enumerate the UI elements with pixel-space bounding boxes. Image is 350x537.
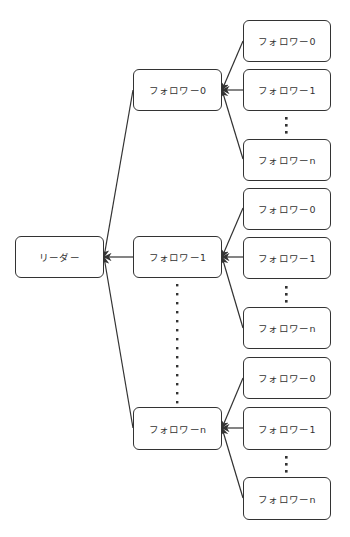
g2-child-n-node: フォロワーn (243, 477, 331, 520)
g2-child-1-label: フォロワー1 (258, 422, 316, 436)
follower-n-label: フォロワーn (149, 422, 207, 436)
g1-child-0-node: フォロワー0 (243, 188, 331, 230)
g0-child-n-label: フォロワーn (258, 153, 316, 167)
follower-0-label: フォロワー0 (149, 83, 207, 97)
g1-child-1-label: フォロワー1 (258, 251, 316, 265)
group1-ellipsis-dots (285, 286, 288, 303)
g1-child-1-node: フォロワー1 (243, 237, 331, 279)
edge-g2-child0-to-parent (222, 378, 243, 428)
follower-1-label: フォロワー1 (149, 250, 207, 264)
g0-child-n-node: フォロワーn (243, 139, 331, 181)
edge-g2-childn-to-parent (222, 428, 243, 498)
edge-g0-childn-to-parent (222, 90, 243, 159)
follower-0-node: フォロワー0 (133, 69, 222, 111)
middle-ellipsis-dots (176, 284, 178, 403)
leader-label: リーダー (39, 250, 80, 264)
edge-g1-childn-to-parent (222, 257, 243, 328)
g1-child-n-node: フォロワーn (243, 307, 331, 349)
g2-child-1-node: フォロワー1 (243, 407, 331, 450)
group0-ellipsis-dots (285, 117, 288, 134)
edge-follower0-to-leader (104, 90, 133, 257)
group2-ellipsis-dots (285, 456, 288, 473)
follower-n-node: フォロワーn (133, 407, 222, 450)
edge-g1-child0-to-parent (222, 208, 243, 257)
g2-child-0-label: フォロワー0 (258, 371, 316, 385)
diagram-canvas: リーダー フォロワー0 フォロワー1 フォロワーn フォロワー0 フォロワー1 … (0, 0, 350, 537)
edge-followern-to-leader (104, 257, 133, 428)
g1-child-n-label: フォロワーn (258, 321, 316, 335)
g0-child-0-node: フォロワー0 (243, 20, 331, 62)
leader-node: リーダー (15, 236, 104, 278)
g2-child-n-label: フォロワーn (258, 492, 316, 506)
edge-g0-child0-to-parent (222, 41, 243, 90)
g2-child-0-node: フォロワー0 (243, 357, 331, 399)
follower-1-node: フォロワー1 (133, 236, 222, 278)
g0-child-1-label: フォロワー1 (258, 83, 316, 97)
g0-child-0-label: フォロワー0 (258, 34, 316, 48)
g1-child-0-label: フォロワー0 (258, 202, 316, 216)
g0-child-1-node: フォロワー1 (243, 69, 331, 111)
